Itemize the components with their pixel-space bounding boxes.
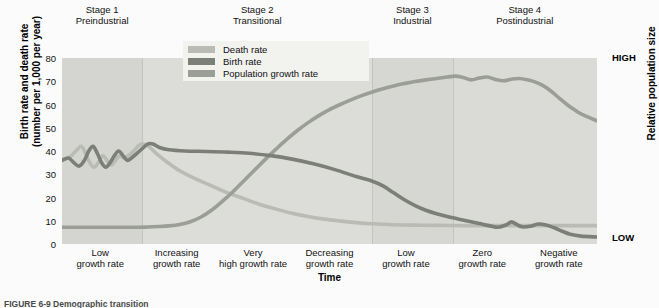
stage-1-name: Preindustrial <box>32 15 172 26</box>
y-axis-title-line1: Birth rate and death rate <box>19 24 30 140</box>
y-axis-title-line2: (number per 1,000 per year) <box>30 16 41 147</box>
right-axis-low-label: LOW <box>612 232 634 243</box>
curves-svg <box>62 58 597 244</box>
stage-4-number: Stage 4 <box>455 4 595 15</box>
y-tick-40: 40 <box>45 146 56 157</box>
legend-item-death-rate: Death rate <box>188 44 365 55</box>
plot-area <box>62 58 597 244</box>
stage-4-name: Postindustrial <box>455 15 595 26</box>
y-tick-50: 50 <box>45 122 56 133</box>
figure-caption: FIGURE 6-9 Demographic transition <box>4 299 149 308</box>
chart-legend: Death rate Birth rate Population growth … <box>183 41 369 81</box>
stage-2-name: Transitional <box>187 15 327 26</box>
y-tick-80: 80 <box>45 53 56 64</box>
stage-1-number: Stage 1 <box>32 4 172 15</box>
right-axis-title: Relative population size <box>646 9 657 159</box>
x-axis-title: Time <box>0 272 659 283</box>
legend-label-death-rate: Death rate <box>223 45 267 55</box>
stage-header-1: Stage 1 Preindustrial <box>32 4 172 26</box>
x-growth-label-7: Negativegrowth rate <box>514 247 604 269</box>
y-tick-10: 10 <box>45 215 56 226</box>
y-axis-title: Birth rate and death rate (number per 1,… <box>19 0 42 175</box>
stage-2-number: Stage 2 <box>187 4 327 15</box>
legend-swatch-population-growth-rate <box>188 70 215 77</box>
stage-header-2: Stage 2 Transitional <box>187 4 327 26</box>
demographic-transition-figure: Stage 1 Preindustrial Stage 2 Transition… <box>0 0 659 308</box>
legend-label-population-growth-rate: Population growth rate <box>223 69 318 79</box>
curve-death-rate <box>62 144 597 226</box>
y-tick-70: 70 <box>45 76 56 87</box>
legend-item-birth-rate: Birth rate <box>188 56 365 67</box>
curve-birth-rate <box>62 144 597 238</box>
right-axis-high-label: HIGH <box>612 52 636 63</box>
y-tick-20: 20 <box>45 192 56 203</box>
curve-population-growth-rate <box>62 76 597 227</box>
legend-swatch-death-rate <box>188 46 215 53</box>
legend-swatch-birth-rate <box>188 58 215 65</box>
legend-item-population-growth-rate: Population growth rate <box>188 68 365 79</box>
y-tick-60: 60 <box>45 99 56 110</box>
stage-header-4: Stage 4 Postindustrial <box>455 4 595 26</box>
legend-label-birth-rate: Birth rate <box>223 57 262 67</box>
y-tick-30: 30 <box>45 169 56 180</box>
